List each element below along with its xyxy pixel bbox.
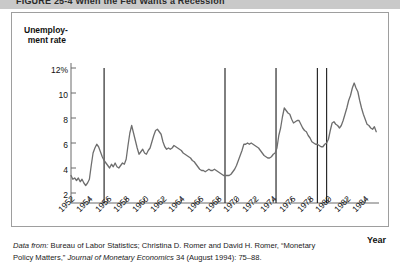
figure-title: FIGURE 25-4 When the Fed Wants a Recessi… <box>16 0 225 6</box>
source-note-part2: Policy Matters,” <box>13 253 67 262</box>
y-axis-title-line2: ment rate <box>24 35 68 45</box>
y-tick-label-10: 10 <box>34 90 68 100</box>
source-note-part3: 34 (August 1994): 75–88. <box>174 253 262 262</box>
source-note-lead: Data from: <box>13 241 48 250</box>
source-note: Data from: Bureau of Labor Statistics; C… <box>13 240 385 263</box>
source-note-journal: Journal of Monetary Economics <box>67 253 173 262</box>
figure-page: FIGURE 25-4 When the Fed Wants a Recessi… <box>0 0 400 271</box>
source-note-part1: Bureau of Labor Statistics; Christina D.… <box>48 241 315 250</box>
y-tick-label-4: 4 <box>34 165 68 175</box>
y-tick-label-12: 12% <box>34 65 68 75</box>
unemployment-series-line <box>71 83 376 186</box>
y-tick-marks <box>71 68 76 193</box>
figure-title-band: FIGURE 25-4 When the Fed Wants a Recessi… <box>0 0 400 9</box>
chart-figure: Unemploy- ment rate 12% 10 8 6 4 2 <box>11 12 389 227</box>
romer-date-lines <box>104 68 326 203</box>
y-tick-label-8: 8 <box>34 115 68 125</box>
plot-area: Unemploy- ment rate 12% 10 8 6 4 2 <box>12 13 390 228</box>
y-tick-label-6: 6 <box>34 140 68 150</box>
y-axis-title-line1: Unemploy- <box>24 25 68 35</box>
y-axis-title: Unemploy- ment rate <box>24 25 68 45</box>
